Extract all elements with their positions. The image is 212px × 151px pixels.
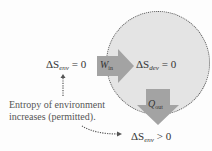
relation: > 0	[157, 130, 171, 142]
relation: = 0	[162, 58, 176, 70]
env-entropy-left-equation: ΔSenv = 0	[46, 58, 86, 74]
device-entropy-equation: ΔSdev = 0	[136, 58, 176, 74]
dotted-pointer-right	[82, 126, 118, 134]
delta-s-symbol: ΔS	[136, 58, 149, 70]
annotation-line-1: Entropy of environment	[9, 99, 105, 111]
arrows-layer	[0, 0, 212, 151]
in-subscript: in	[108, 65, 113, 71]
annotation-text: Entropy of environment increases (permit…	[9, 99, 105, 123]
annotation-line-2: increases (permitted).	[9, 111, 105, 123]
env-subscript: env	[59, 64, 69, 72]
arrowhead-right-icon	[117, 132, 122, 137]
dev-subscript: dev	[149, 64, 159, 72]
work-in-label: Win	[100, 59, 113, 71]
arrowhead-up-icon	[61, 74, 66, 78]
heat-out-label: Qout	[148, 98, 163, 110]
env-subscript: env	[144, 136, 154, 144]
out-subscript: out	[155, 104, 163, 110]
env-entropy-bottom-equation: ΔSenv > 0	[131, 130, 171, 146]
relation: = 0	[72, 58, 86, 70]
delta-s-symbol: ΔS	[46, 58, 59, 70]
delta-s-symbol: ΔS	[131, 130, 144, 142]
